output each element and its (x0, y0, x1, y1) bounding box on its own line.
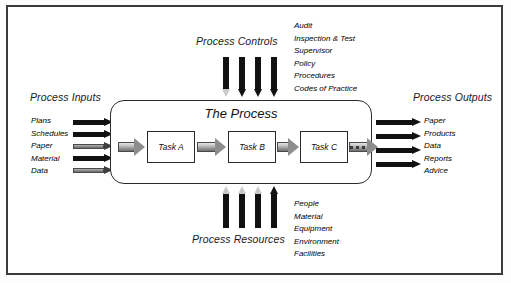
control-item: Codes of Practice (294, 84, 357, 93)
input-item: Schedules (31, 129, 68, 138)
task-box-c[interactable]: Task C (300, 131, 348, 163)
control-arrow-3 (254, 57, 262, 97)
control-item: Policy (294, 59, 357, 68)
process-controls-list: Audit Inspection & Test Supervisor Polic… (294, 21, 357, 97)
task-b-to-c-arrow (277, 138, 299, 156)
resource-item: Equipment (294, 224, 339, 233)
process-inputs-heading: Process Inputs (30, 92, 101, 103)
task-a-to-b-arrow (197, 138, 226, 156)
task-label: Task A (158, 142, 183, 152)
output-arrow-1 (376, 118, 421, 127)
input-item: Paper (31, 141, 68, 150)
control-arrow-4 (270, 57, 278, 97)
resource-item: Material (294, 212, 339, 221)
output-arrow-4 (376, 160, 421, 169)
process-title: The Process (110, 106, 372, 121)
resource-item: People (294, 199, 339, 208)
output-item: Products (424, 129, 456, 138)
input-item: Plans (31, 116, 68, 125)
control-arrow-1 (222, 57, 230, 97)
input-arrow-4 (73, 154, 113, 163)
control-item: Audit (294, 21, 357, 30)
output-item: Advice (424, 166, 456, 175)
control-item: Supervisor (294, 46, 357, 55)
task-label: Task C (311, 142, 337, 152)
resource-item: Facilities (294, 249, 339, 258)
output-item: Paper (424, 116, 456, 125)
process-controls-heading: Process Controls (196, 36, 278, 47)
output-item: Reports (424, 154, 456, 163)
diagram-canvas: Process Controls Audit Inspection & Test… (0, 0, 511, 283)
task-label: Task B (239, 142, 265, 152)
task-box-b[interactable]: Task B (228, 131, 276, 163)
input-item: Material (31, 154, 68, 163)
input-arrow-5 (73, 166, 113, 175)
resource-arrow-2 (238, 186, 246, 228)
resource-arrow-4 (270, 186, 278, 228)
input-item: Data (31, 166, 68, 175)
input-arrow-3 (73, 142, 113, 151)
process-resources-heading: Process Resources (192, 234, 285, 245)
process-resources-list: People Material Equipment Environment Fa… (294, 199, 339, 262)
output-item: Data (424, 141, 456, 150)
resource-item: Environment (294, 237, 339, 246)
process-exit-arrow (349, 138, 378, 156)
input-arrow-1 (73, 118, 113, 127)
output-arrow-3 (376, 146, 421, 155)
process-inputs-list: Plans Schedules Paper Material Data (31, 116, 68, 179)
control-item: Inspection & Test (294, 34, 357, 43)
task-box-a[interactable]: Task A (147, 131, 195, 163)
control-arrow-2 (238, 57, 246, 97)
resource-arrow-1 (222, 186, 230, 228)
process-outputs-list: Paper Products Data Reports Advice (424, 116, 456, 179)
resource-arrow-3 (254, 186, 262, 228)
process-outputs-heading: Process Outputs (413, 92, 492, 103)
control-item: Procedures (294, 71, 357, 80)
output-arrow-2 (376, 132, 421, 141)
process-entry-arrow (118, 138, 145, 156)
input-arrow-2 (73, 130, 113, 139)
